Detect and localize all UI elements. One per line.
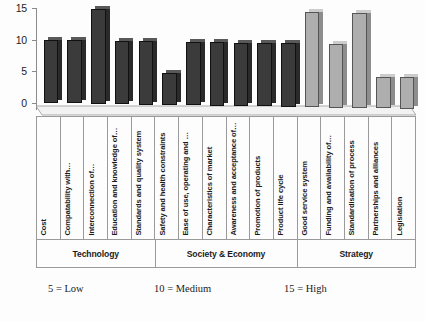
bar: [281, 43, 296, 106]
x-axis-label-cell: Characteristics of market: [203, 117, 227, 239]
bar-side: [129, 38, 133, 101]
bar-top: [333, 41, 348, 44]
bar-face: [305, 12, 320, 107]
y-axis-tick-label: 10: [16, 34, 27, 45]
x-axis-label: Good service system: [301, 162, 309, 237]
category-group-band: TechnologySociety & EconomyStrategy: [36, 240, 416, 268]
scale-legend: 5 = Low10 = Medium15 = High: [36, 283, 416, 305]
bar-top: [143, 38, 158, 41]
bar-side: [153, 38, 157, 101]
bar: [91, 9, 106, 104]
bar-top: [214, 39, 229, 42]
x-axis-label: Interconnection of…: [88, 164, 96, 236]
y-axis-tick-label: 5: [21, 66, 27, 77]
x-axis-label-cell: Promotion of products: [250, 117, 274, 239]
bar-face: [234, 43, 249, 106]
bar-face: [257, 43, 272, 106]
bar-body: [400, 77, 415, 109]
bar-top: [190, 39, 205, 42]
bar-side: [58, 37, 62, 100]
category-group-label: Technology: [72, 249, 119, 259]
x-axis-label: Standards and quality system: [136, 131, 144, 236]
bar-top: [166, 70, 181, 73]
scale-legend-item: 10 = Medium: [154, 283, 211, 294]
bar-body: [352, 13, 367, 108]
bar-side: [224, 39, 228, 102]
bar-face: [139, 41, 154, 104]
x-axis-label-cell: Standardisation of process: [345, 117, 369, 239]
x-axis-label-cell: Education and knowledge of…: [108, 117, 132, 239]
bar-side: [82, 37, 86, 100]
bar-series: [36, 8, 416, 110]
category-group-label: Strategy: [339, 249, 373, 259]
bar: [400, 77, 415, 109]
bar-body: [234, 43, 249, 106]
bar-side: [343, 41, 347, 104]
category-group: Society & Economy: [156, 240, 298, 268]
bar: [352, 13, 367, 108]
x-axis-label-cell: Awareness and acceptance of…: [227, 117, 251, 239]
x-axis-label-cell: Product life cycle: [274, 117, 298, 239]
bar-top: [261, 40, 276, 43]
x-axis-label-cell: Partnerships and alliances: [369, 117, 393, 239]
bar-top: [238, 40, 253, 43]
x-axis-label-cell: Interconnection of…: [84, 117, 108, 239]
bar: [376, 77, 391, 109]
bar-face: [281, 43, 296, 106]
bar: [257, 43, 272, 106]
bar-side: [367, 10, 371, 105]
x-axis-label: Ease of use, operating and …: [183, 132, 191, 236]
bar: [67, 40, 82, 103]
chart-figure: 051015 CostCompatability with…Interconne…: [0, 0, 425, 321]
bar-body: [115, 41, 130, 104]
bar: [305, 12, 320, 107]
x-axis-label: Standardisation of process: [349, 141, 357, 236]
bar: [210, 42, 225, 105]
x-axis-label: Safety and health constraints: [159, 133, 167, 236]
x-axis-label: Awareness and acceptance of…: [230, 123, 238, 236]
bar-body: [329, 44, 344, 107]
x-axis-label-grid: CostCompatability with…Interconnection o…: [36, 116, 416, 240]
x-axis-label: Product life cycle: [278, 175, 286, 236]
x-axis-label: Legislation: [396, 197, 404, 236]
x-axis-label-cell: Cost: [37, 117, 61, 239]
x-axis-label: Promotion of products: [254, 156, 262, 236]
bar-face: [186, 42, 201, 105]
bar-side: [296, 40, 300, 103]
bar-top: [95, 6, 110, 9]
y-axis-tick-label: 0: [21, 98, 27, 109]
bar-side: [201, 39, 205, 102]
y-axis-tick-label: 15: [16, 3, 27, 14]
x-axis-label-cell: Good service system: [298, 117, 322, 239]
x-axis-label: Characteristics of market: [207, 147, 215, 236]
bar-face: [352, 13, 367, 108]
x-axis-label-cell: Legislation: [392, 117, 415, 239]
bar: [186, 42, 201, 105]
bar: [115, 41, 130, 104]
bar-face: [210, 42, 225, 105]
bar-side: [106, 6, 110, 101]
bar-top: [71, 37, 86, 40]
bar-body: [281, 43, 296, 106]
bar-face: [400, 77, 415, 109]
category-group: Technology: [36, 240, 156, 268]
bar: [44, 40, 59, 103]
bar-body: [376, 77, 391, 109]
x-axis-label-cell: Ease of use, operating and …: [179, 117, 203, 239]
bar-top: [380, 74, 395, 77]
bar-body: [67, 40, 82, 103]
category-group-label: Society & Economy: [187, 249, 266, 259]
bar-body: [162, 73, 177, 105]
bar-top: [404, 74, 419, 77]
bar-body: [91, 9, 106, 104]
bar-side: [391, 74, 395, 106]
bar-face: [162, 73, 177, 105]
bar-face: [67, 40, 82, 103]
scale-legend-item: 15 = High: [284, 283, 327, 294]
x-axis-label: Cost: [41, 220, 49, 236]
bar-top: [48, 37, 63, 40]
bar-body: [186, 42, 201, 105]
bar-side: [319, 9, 323, 104]
bar-body: [257, 43, 272, 106]
x-axis-label: Compatability with…: [64, 163, 72, 236]
